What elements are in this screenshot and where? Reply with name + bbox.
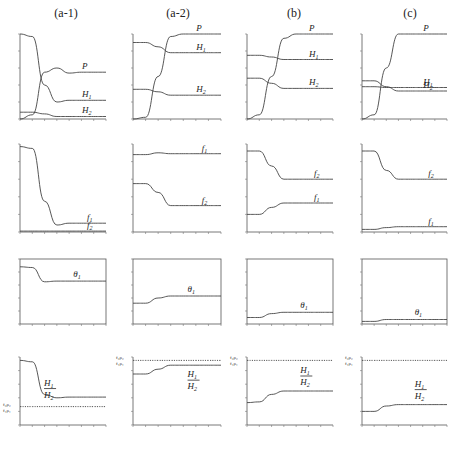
curve-P [20,68,106,119]
chart-panel-b-row3: θ1 [245,257,341,332]
series-label: f2 [428,168,434,179]
curve-P [362,34,447,119]
plot-axes [362,357,447,425]
ratio-numerator: H1 [187,369,198,380]
curve-H2 [362,81,447,91]
plot-axes [362,34,447,119]
series-label: H1 [195,42,206,53]
column-title-a1: (a-1) [26,6,106,21]
plot-axes [133,357,221,425]
curve-theta1 [247,312,333,317]
reference-label-bottom: f₁ρ₁ [3,408,11,413]
curve-H1 [20,34,106,102]
reference-label-bottom: f₁ρ₁ [345,361,353,366]
curve-theta1 [20,267,106,282]
series-label: f1 [202,143,208,154]
series-label: P [422,23,429,33]
plot-axes [247,34,333,119]
column-title-c: (c) [370,6,450,21]
column-title-b: (b) [254,6,334,21]
chart-panel-a2-row2: f1f2 [131,142,229,240]
curve-P [247,34,333,119]
chart-panel-a2-row3: θ1 [131,257,229,332]
series-label: θ1 [415,307,422,318]
reference-label-top: f₂ρ₂ [345,355,353,360]
chart-panel-a1-row4: H1H2f₂ρ₂f₁ρ₁ [18,355,114,433]
reference-label-bottom: f₁ρ₁ [230,361,238,366]
curve-H1H2 [20,360,106,397]
series-label: f2 [202,195,208,206]
plot-axes [362,144,447,232]
curve-f1 [247,203,333,214]
curve-H1H2 [247,391,333,403]
curve-f2 [133,184,221,206]
series-label: f1 [428,216,434,227]
series-label: H2 [81,105,92,116]
chart-panel-b-row1: PH1H2 [245,32,341,127]
curve-H1 [362,87,447,88]
plot-axes [20,357,106,425]
curve-H1H2 [133,365,221,374]
curve-H2 [133,89,221,95]
plot-axes [20,34,106,119]
reference-label-top: f₂ρ₂ [230,355,238,360]
series-label: θ1 [300,300,307,311]
series-label: H2 [308,77,319,88]
column-title-a2: (a-2) [138,6,218,21]
chart-panel-b-row2: f2f1 [245,142,341,240]
series-label: θ1 [73,269,80,280]
series-label: P [308,23,315,33]
curve-f2 [362,151,447,179]
chart-panel-a2-row1: PH1H2 [131,32,229,127]
plot-axes [133,34,221,119]
curve-f1 [362,227,447,230]
ratio-numerator: H1 [414,379,425,390]
plot-axes [247,144,333,232]
ratio-denominator: H2 [299,377,310,388]
series-label: f2 [314,168,320,179]
plot-axes [20,144,106,232]
plot-frame [133,259,221,324]
series-label: P [195,23,202,33]
series-label: H1 [81,89,92,100]
curve-H1 [133,43,221,53]
series-label: H2 [195,84,206,95]
reference-label-top: f₂ρ₂ [116,355,124,360]
series-label: f1 [314,192,320,203]
ratio-denominator: H2 [414,391,425,402]
reference-label-top: f₂ρ₂ [3,402,11,407]
curve-f1 [20,147,106,225]
curve-H1H2 [362,405,447,412]
reference-label-bottom: f₁ρ₁ [116,361,124,366]
plot-frame [20,259,106,324]
chart-panel-a1-row1: PH1H2 [18,32,114,127]
curve-H1 [247,55,333,59]
plot-axes [133,144,221,232]
curve-f2 [247,151,333,179]
chart-panel-c-row1: PH1H2 [360,32,455,127]
plot-frame [362,259,447,324]
series-label: H1 [308,49,319,60]
ratio-numerator: H1 [43,378,54,389]
curve-P [133,34,221,119]
plot-frame [247,259,333,324]
ratio-denominator: H2 [43,390,54,401]
curve-H2 [247,78,333,88]
chart-panel-a2-row4: H1H2f₂ρ₂f₁ρ₁ [131,355,229,433]
curve-f1 [133,153,221,155]
chart-panel-b-row4: H1H2f₂ρ₂f₁ρ₁ [245,355,341,433]
series-label: θ1 [188,284,195,295]
chart-panel-c-row2: f2f1 [360,142,455,240]
ratio-numerator: H1 [299,365,310,376]
curve-theta1 [133,296,221,303]
chart-panel-a1-row2: f1f2 [18,142,114,240]
chart-panel-c-row4: H1H2f₂ρ₂f₁ρ₁ [360,355,455,433]
ratio-denominator: H2 [187,381,198,392]
series-label: P [81,61,88,71]
curve-theta1 [362,320,447,322]
chart-panel-a1-row3: θ1 [18,257,114,332]
chart-panel-c-row3: θ1 [360,257,455,332]
